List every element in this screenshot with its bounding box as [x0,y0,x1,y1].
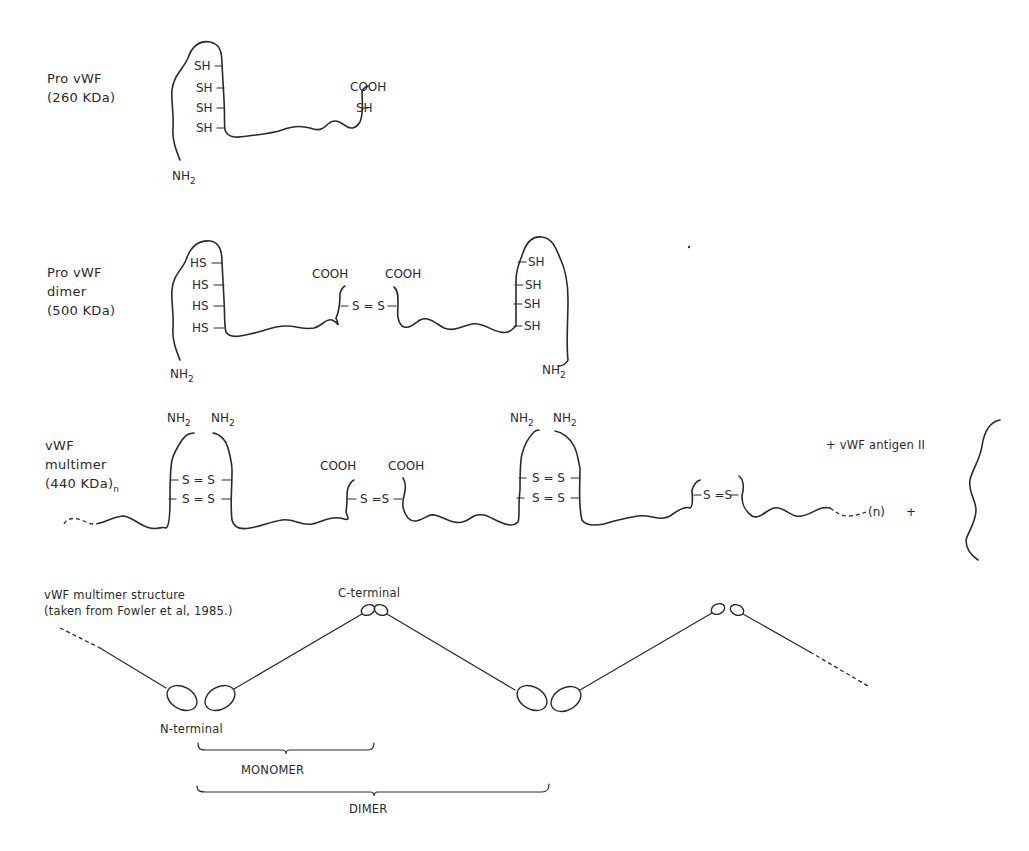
sh-group: SH [524,319,541,333]
multimer-chain-1 [100,433,194,529]
pro-vwf-title-line2: (260 KDa) [47,90,115,105]
dimer-brace [197,784,549,796]
antigen-brace [966,420,1000,560]
panel-pro-vwf-dimer: Pro vWF dimer (500 KDa) HS HS HS HS COOH… [47,237,690,384]
dimer-title-line1: Pro vWF [47,265,102,280]
plus-sign: + [906,505,916,519]
cooh-label: COOH [350,80,386,94]
dimer-title-line3: (500 KDa) [47,303,115,318]
sh-group: SH [196,81,213,95]
stray-dot [688,246,690,248]
nh2-label: NH2 [211,411,235,428]
monomer-brace [198,743,374,754]
nh2-label: NH2 [167,411,191,428]
structure-title-line2: (taken from Fowler et al, 1985.) [44,604,233,618]
n-terminal-domain [547,681,586,716]
sh-group: SH [528,255,545,269]
c-terminal-label: C-terminal [338,586,400,600]
nh2-label: NH2 [553,411,577,428]
structure-title-line1: vWF multimer structure [44,588,185,602]
disulfide-bond: S = S [182,492,215,506]
pro-vwf-title-line1: Pro vWF [47,71,102,86]
n-terminal-domain [201,680,240,715]
nh2-left: NH2 [170,367,194,384]
cooh-right: COOH [385,267,421,281]
disulfide-bond: S = S [532,471,565,485]
vwf-antigen-ii-label: + vWF antigen II [826,438,925,452]
hs-group: HS [192,299,209,313]
c-terminal-domain [373,603,390,618]
disulfide-bond: S = S [182,473,215,487]
vwf-structure-diagram: Pro vWF (260 KDa) SH SH SH SH COOH SH NH… [0,0,1029,851]
hs-group: HS [192,321,209,335]
c-terminal-domain [710,602,727,617]
hs-group: HS [192,278,209,292]
disulfide-bond: S = S [352,299,385,313]
cooh-left: COOH [312,267,348,281]
multimer-title-line3: (440 KDa)n [45,476,119,494]
monomer-label: MONOMER [241,763,304,777]
disulfide-bond: S =S [360,492,389,506]
dimer-label: DIMER [349,802,387,816]
sh-group: SH [524,297,541,311]
sh-group: SH [196,101,213,115]
dimer-title-line2: dimer [47,284,87,299]
sh-group: SH [196,121,213,135]
panel-pro-vwf: Pro vWF (260 KDa) SH SH SH SH COOH SH NH… [47,42,386,186]
c-terminal-domain [729,603,746,618]
disulfide-bond: S = S [532,491,565,505]
nh2-label: NH2 [172,169,196,186]
cooh-label: COOH [388,459,424,473]
nh2-label: NH2 [510,411,534,428]
c-sh-label: SH [356,101,373,115]
panel-vwf-multimer: vWF multimer (440 KDa)n NH2 NH2 S = S S … [45,411,1000,560]
sh-group: SH [194,59,211,73]
multimer-title-line2: multimer [45,457,107,472]
repeat-n-label: (n) [868,505,885,519]
sh-group: SH [525,278,542,292]
n-terminal-label: N-terminal [160,722,223,736]
disulfide-bond: S =S [703,488,732,502]
panel-multimer-structure: vWF multimer structure (taken from Fowle… [44,586,868,816]
n-terminal-domain [513,680,552,715]
hs-group: HS [190,256,207,270]
n-terminal-domain [163,680,202,715]
multimer-title-line1: vWF [45,438,74,453]
cooh-label: COOH [320,459,356,473]
